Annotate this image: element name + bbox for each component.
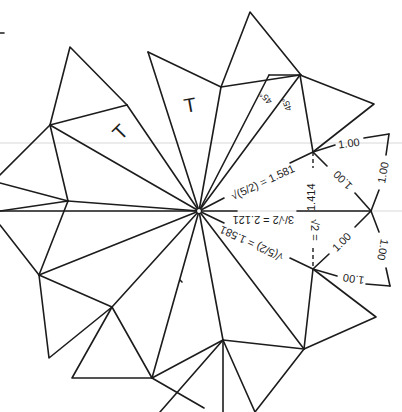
- length-label-lower-radial: √(5/2) = 1.581: [218, 224, 285, 264]
- triangle-edges: [0, 12, 390, 412]
- edge-label-4: 1.00: [330, 230, 354, 254]
- edge-label-6: 1.00: [342, 272, 365, 287]
- diagram-canvas: T T 45° 45° √(5/2) = 1.581 3/√2 = 2.121 …: [0, 0, 402, 412]
- edge-label-1: 1.00: [337, 136, 360, 151]
- center-point: [197, 209, 202, 214]
- face-label-t2: T: [182, 93, 198, 117]
- length-label-upper-radial: √(5/2) = 1.581: [229, 162, 296, 202]
- length-label-vertical-lower: √2 =: [309, 219, 321, 241]
- edge-label-3: 1.00: [331, 168, 355, 192]
- face-label-t1: T: [108, 120, 132, 144]
- edge-label-2: 1.00: [375, 161, 391, 184]
- length-label-horizontal: 3/√2 = 2.121: [233, 214, 294, 226]
- edge-label-5: 1.00: [375, 238, 391, 261]
- rosette-diagram: T T 45° 45° √(5/2) = 1.581 3/√2 = 2.121 …: [0, 0, 402, 412]
- length-label-vertical-upper: 1.414: [305, 183, 317, 211]
